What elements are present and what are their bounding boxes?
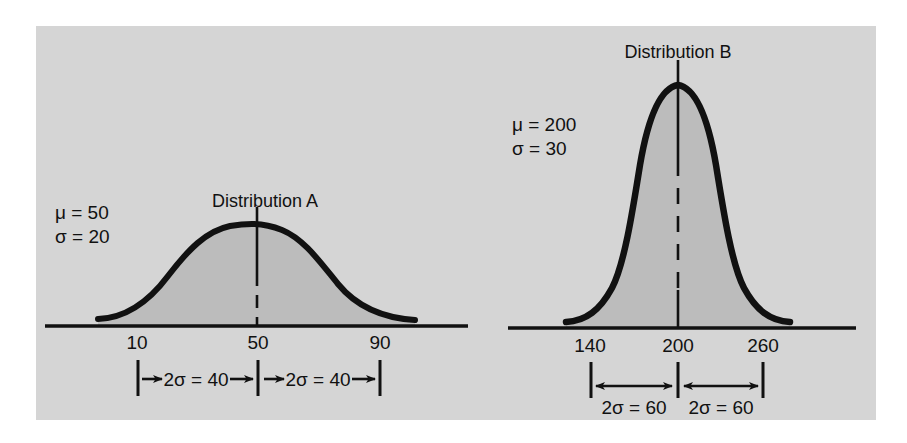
distribution-b-tick-label-2: 260 [747, 335, 779, 356]
distribution-b-span-label-left: 2σ = 60 [601, 397, 666, 418]
distribution-a-title: Distribution A [212, 191, 318, 211]
distribution-a-span-label-left: 2σ = 40 [163, 369, 228, 390]
distribution-a-span-label-right: 2σ = 40 [285, 369, 350, 390]
distribution-a-mu-label: μ = 50 [55, 202, 109, 223]
distribution-b-mu-label: μ = 200 [512, 114, 576, 135]
distribution-b-span-label-right: 2σ = 60 [688, 397, 753, 418]
distribution-b-tick-label-0: 140 [574, 335, 606, 356]
distribution-a-tick-label-1: 50 [247, 332, 268, 353]
distribution-a-tick-label-0: 10 [126, 332, 147, 353]
distribution-a-sigma-label: σ = 20 [55, 226, 110, 247]
figure-root: Distribution A μ = 50 σ = 20 10 50 90 2σ… [0, 0, 907, 443]
distribution-b-title: Distribution B [624, 42, 731, 62]
distribution-a-tick-label-2: 90 [369, 332, 390, 353]
distribution-b-tick-label-1: 200 [662, 335, 694, 356]
distribution-comparison-figure: Distribution A μ = 50 σ = 20 10 50 90 2σ… [0, 0, 907, 443]
distribution-a-group: Distribution A μ = 50 σ = 20 10 50 90 2σ… [45, 191, 468, 396]
distribution-b-sigma-label: σ = 30 [512, 138, 567, 159]
distribution-b-group: Distribution B μ = 200 σ = 30 140 200 26… [508, 42, 856, 418]
